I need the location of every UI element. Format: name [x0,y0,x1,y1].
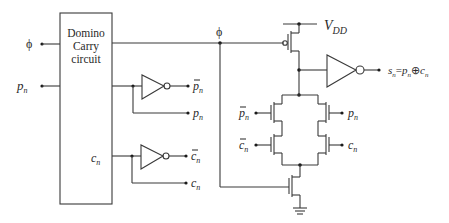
nmos-right-top-transistor [318,95,342,136]
phi-node-label: ϕ [216,25,222,39]
nmos-left-top-transistor [256,95,282,136]
nmos-right-bottom-transistor [318,134,342,165]
block-cn-label: cn [91,151,100,167]
pn-terminal [186,111,189,114]
cn-bar-label: cn [191,149,200,165]
left-bottom-gate-terminal [254,143,257,146]
cn-inverter-triangle [141,145,163,169]
pn-inverter-triangle [142,75,164,99]
phi-input-label: ϕ [26,37,32,51]
pn-bar-terminal [186,84,189,87]
left-bottom-gate-label: cn [239,138,248,154]
ground-icon [293,208,307,214]
output-inverter-triangle [327,55,356,87]
block-label-line2: Carry [73,40,99,53]
right-top-gate-label: pn [347,106,358,122]
right-top-gate-terminal [340,111,343,114]
cn-bar-terminal [184,154,187,157]
pmos-precharge-transistor [283,24,299,95]
left-top-gate-terminal [254,111,257,114]
left-top-gate-label: pn [238,106,249,122]
sum-output-label: sn=pn⊕cn [388,64,429,79]
vdd-label: VDD [324,18,348,36]
cn-label: cn [191,176,200,192]
circuit-diagram: Domino Carry circuit cn ϕ pn ϕ pn pn cn … [0,0,449,223]
nmos-evaluate-transistor [289,165,300,208]
right-bottom-gate-terminal [340,143,343,146]
pn-label: pn [192,106,203,122]
right-bottom-gate-label: cn [348,138,357,154]
cn-terminal [184,181,187,184]
pn-bar-label: pn [192,79,203,95]
sum-output-terminal [377,68,380,71]
block-label-line3: circuit [71,53,101,65]
output-inverter-bubble [356,66,364,74]
block-label-line1: Domino [67,27,105,39]
nmos-left-bottom-transistor [256,134,282,165]
pn-input-label: pn [16,78,28,95]
